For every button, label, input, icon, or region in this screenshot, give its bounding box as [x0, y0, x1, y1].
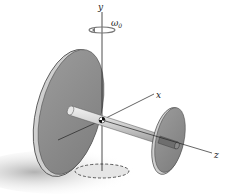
y-axis-label: y	[97, 2, 104, 12]
small-disk	[146, 105, 190, 178]
x-axis-line-front	[102, 94, 154, 120]
diagram-canvas: y x z ω0	[0, 0, 225, 196]
x-axis-label: x	[156, 90, 161, 100]
omega-label: ω0	[111, 18, 122, 29]
z-axis-label: z	[213, 150, 219, 160]
